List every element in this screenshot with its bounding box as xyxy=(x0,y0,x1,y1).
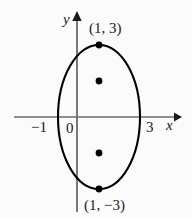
point-lower-focus xyxy=(96,150,103,157)
point-bottom-vertex xyxy=(96,186,103,193)
y-axis-arrowhead xyxy=(72,11,81,21)
point-label-top: (1, 3) xyxy=(89,21,122,36)
point-label-bottom: (1, −3) xyxy=(84,198,125,213)
y-axis-label: y xyxy=(63,12,70,27)
ellipse-diagram: y x −1 0 3 (1, 3) (1, −3) xyxy=(0,0,192,218)
origin-label: 0 xyxy=(66,121,74,136)
x-tick-label-3: 3 xyxy=(146,120,154,135)
point-upper-focus xyxy=(96,78,103,85)
x-tick-label-neg-1: −1 xyxy=(31,120,47,135)
x-axis-label: x xyxy=(166,118,173,133)
point-top-vertex xyxy=(96,42,103,49)
x-axis-arrowhead xyxy=(174,113,182,122)
